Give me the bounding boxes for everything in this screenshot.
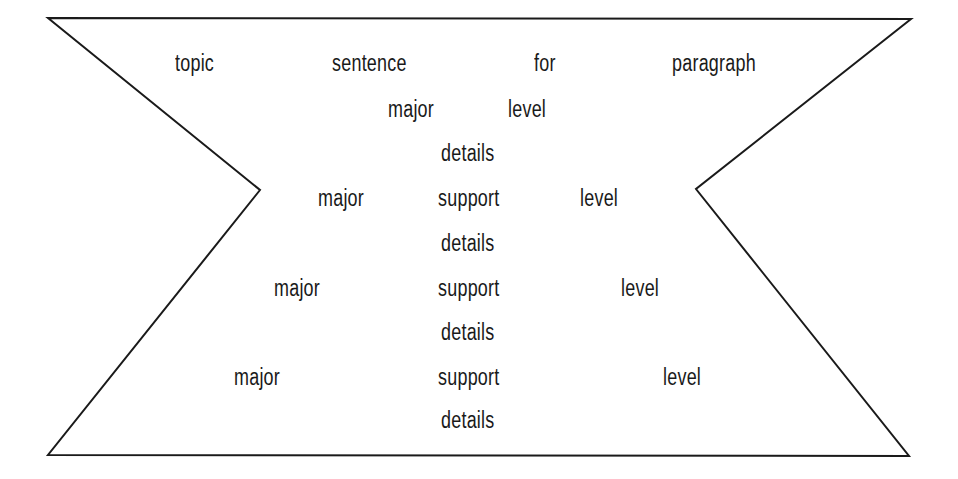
paragraph-structure-diagram: topic sentence for paragraph major level…: [0, 0, 958, 479]
word-level: level: [580, 187, 618, 210]
word-major: major: [274, 277, 320, 300]
word-level: level: [508, 98, 546, 121]
word-support: support: [438, 366, 499, 389]
word-for: for: [534, 52, 556, 75]
word-support: support: [438, 277, 499, 300]
word-level: level: [663, 366, 701, 389]
word-major: major: [234, 366, 280, 389]
word-level: level: [621, 277, 659, 300]
word-details: details: [441, 142, 495, 165]
word-details: details: [441, 409, 495, 432]
word-details: details: [441, 232, 495, 255]
word-sentence: sentence: [332, 52, 407, 75]
word-details: details: [441, 321, 495, 344]
word-topic: topic: [175, 52, 214, 75]
word-major: major: [388, 98, 434, 121]
word-paragraph: paragraph: [672, 52, 756, 75]
word-support: support: [438, 187, 499, 210]
word-major: major: [318, 187, 364, 210]
